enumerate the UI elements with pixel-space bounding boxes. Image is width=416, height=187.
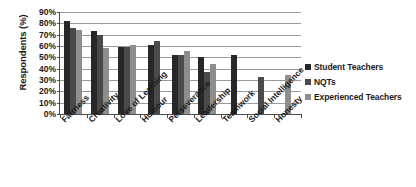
y-axis-tickmark — [57, 91, 60, 92]
y-axis-tickmark — [57, 80, 60, 81]
y-axis-tick-label: 40% — [22, 65, 56, 74]
y-axis-tickmark — [57, 12, 60, 13]
legend-swatch-icon — [305, 94, 311, 100]
y-axis-tick-label: 0% — [22, 110, 56, 119]
bar-chart: Respondents (%) 90%80%70%60%50%40%30%20%… — [0, 0, 416, 187]
y-axis-tick-labels: 90%80%70%60%50%40%30%20%10%0% — [22, 7, 56, 117]
y-axis-tickmark — [57, 103, 60, 104]
y-axis-tick-label: 90% — [22, 8, 56, 17]
x-axis-tickmark — [301, 114, 302, 118]
y-axis-tick-label: 70% — [22, 31, 56, 40]
chart-legend: Student TeachersNQTsExperienced Teachers — [305, 59, 413, 104]
y-axis-tickmark — [57, 57, 60, 58]
y-axis-tickmark — [57, 46, 60, 47]
legend-item-label: Experienced Teachers — [314, 92, 402, 102]
y-axis-tick-label: 10% — [22, 99, 56, 108]
legend-item[interactable]: Student Teachers — [305, 59, 413, 74]
x-axis-category-labels: FairnessCreativityLove of LearningHumour… — [59, 118, 300, 184]
legend-item-label: Student Teachers — [314, 62, 383, 72]
y-axis-tickmark — [57, 23, 60, 24]
legend-swatch-icon — [305, 79, 311, 85]
y-axis-tick-label: 20% — [22, 87, 56, 96]
legend-item-label: NQTs — [314, 77, 336, 87]
y-axis-tick-label: 80% — [22, 19, 56, 28]
legend-item[interactable]: NQTs — [305, 74, 413, 89]
y-axis-tick-label: 50% — [22, 53, 56, 62]
y-axis-tick-label: 60% — [22, 42, 56, 51]
y-axis-tickmark — [57, 35, 60, 36]
y-axis-tick-label: 30% — [22, 76, 56, 85]
y-axis-tickmark — [57, 69, 60, 70]
legend-item[interactable]: Experienced Teachers — [305, 89, 413, 104]
legend-swatch-icon — [305, 64, 311, 70]
y-axis-tickmark — [57, 114, 60, 115]
